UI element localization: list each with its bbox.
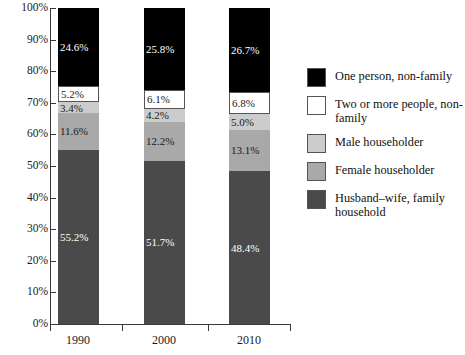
bar-segment-value-label: 6.1%	[147, 94, 170, 105]
bar-segment-value-label: 11.6%	[60, 126, 88, 137]
bar-segment-2010-0[interactable]: 26.7%	[229, 8, 270, 92]
bar-segment-2000-3[interactable]: 12.2%	[144, 122, 185, 161]
bar-segment-1990-3[interactable]: 11.6%	[58, 113, 99, 150]
bar-2010[interactable]: 26.7%6.8%5.0%13.1%48.4%	[229, 8, 270, 324]
y-axis-tick-mark	[50, 134, 56, 135]
bar-segment-2010-3[interactable]: 13.1%	[229, 130, 270, 171]
y-axis-tick-label: 50%	[2, 160, 48, 172]
y-axis-tick-mark	[50, 71, 56, 72]
legend-swatch-icon	[307, 134, 326, 153]
bar-segment-2000-1[interactable]: 6.1%	[144, 90, 185, 109]
bar-segment-2000-0[interactable]: 25.8%	[144, 8, 185, 90]
legend-item-1[interactable]: Two or more people, non-family	[307, 96, 465, 125]
y-axis-tick-label: 70%	[2, 97, 48, 109]
bar-segment-value-label: 12.2%	[146, 136, 174, 147]
bar-segment-value-label: 24.6%	[60, 41, 88, 52]
bar-segment-2000-4[interactable]: 51.7%	[144, 161, 185, 324]
legend-item-2[interactable]: Male householder	[307, 134, 465, 153]
legend-swatch-icon	[307, 162, 326, 181]
legend-swatch-icon	[307, 68, 326, 87]
bar-segment-1990-4[interactable]: 55.2%	[58, 150, 99, 324]
bar-segment-value-label: 6.8%	[232, 98, 255, 109]
y-axis-tick-label: 100%	[2, 2, 48, 14]
bar-segment-2010-1[interactable]: 6.8%	[229, 92, 270, 113]
bar-segment-1990-1[interactable]: 5.2%	[58, 86, 99, 102]
x-axis-separator-tick	[208, 324, 209, 331]
x-axis-line	[50, 324, 290, 325]
bar-segment-value-label: 55.2%	[60, 231, 88, 242]
legend-swatch-icon	[307, 96, 326, 115]
legend-item-label: One person, non-family	[335, 68, 452, 83]
y-axis-tick-label: 0%	[2, 318, 48, 330]
x-axis-category-label-2000: 2000	[129, 334, 199, 346]
x-axis-category-label-2010: 2010	[214, 334, 284, 346]
legend-item-0[interactable]: One person, non-family	[307, 68, 465, 87]
y-axis-tick-mark	[50, 8, 56, 9]
y-axis-tick-mark	[50, 198, 56, 199]
legend-swatch-icon	[307, 190, 326, 209]
bar-segment-value-label: 5.2%	[61, 88, 84, 99]
y-axis-tick-mark	[50, 229, 56, 230]
bar-segment-1990-2[interactable]: 3.4%	[58, 102, 99, 113]
y-axis-tick-label: 30%	[2, 223, 48, 235]
legend-item-label: Husband–wife, family household	[335, 190, 463, 219]
bar-segment-2010-4[interactable]: 48.4%	[229, 171, 270, 324]
bar-segment-value-label: 25.8%	[146, 43, 174, 54]
y-axis-tick-label: 40%	[2, 192, 48, 204]
y-axis-tick-mark	[50, 166, 56, 167]
legend-item-4[interactable]: Husband–wife, family household	[307, 190, 465, 219]
y-axis-tick-label: 10%	[2, 287, 48, 299]
legend-item-label: Male householder	[335, 134, 423, 149]
bar-1990[interactable]: 24.6%5.2%3.4%11.6%55.2%	[58, 8, 99, 324]
x-axis-category-label-1990: 1990	[43, 334, 113, 346]
y-axis-tick-label: 60%	[2, 129, 48, 141]
y-axis-tick-mark	[50, 292, 56, 293]
stacked-bar-chart: 0%10%20%30%40%50%60%70%80%90%100% 199020…	[0, 0, 465, 355]
bar-segment-value-label: 13.1%	[231, 145, 259, 156]
y-axis-tick-label: 80%	[2, 65, 48, 77]
y-axis-tick-mark	[50, 40, 56, 41]
chart-legend: One person, non-familyTwo or more people…	[307, 68, 465, 229]
bar-2000[interactable]: 25.8%6.1%4.2%12.2%51.7%	[144, 8, 185, 324]
legend-item-label: Female householder	[335, 162, 434, 177]
x-axis-end-tick	[50, 324, 51, 331]
bar-segment-1990-0[interactable]: 24.6%	[58, 8, 99, 86]
y-axis-tick-mark	[50, 261, 56, 262]
bar-segment-2000-2[interactable]: 4.2%	[144, 109, 185, 122]
bar-segment-value-label: 5.0%	[231, 116, 254, 127]
bar-segment-value-label: 26.7%	[231, 45, 259, 56]
bar-segment-value-label: 4.2%	[146, 110, 169, 121]
bar-segment-value-label: 51.7%	[146, 237, 174, 248]
legend-item-label: Two or more people, non-family	[335, 96, 463, 125]
bar-segment-value-label: 3.4%	[60, 102, 83, 113]
y-axis-tick-mark	[50, 103, 56, 104]
bar-segment-2010-2[interactable]: 5.0%	[229, 114, 270, 130]
y-axis-tick-label: 20%	[2, 255, 48, 267]
legend-item-3[interactable]: Female householder	[307, 162, 465, 181]
y-axis-tick-label: 90%	[2, 34, 48, 46]
x-axis-separator-tick	[122, 324, 123, 331]
x-axis-end-tick	[290, 324, 291, 331]
bar-segment-value-label: 48.4%	[231, 242, 259, 253]
